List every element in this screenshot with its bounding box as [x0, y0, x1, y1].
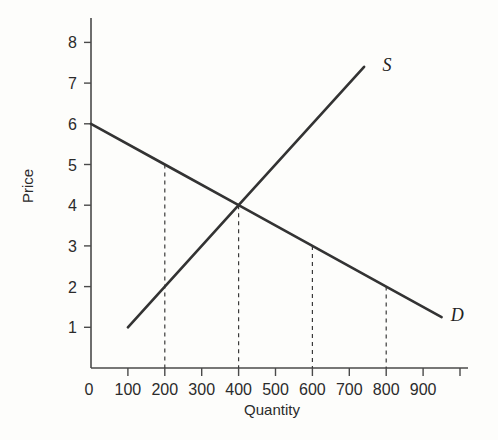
origin-tick-label: 0 — [85, 381, 94, 398]
y-tick-label: 5 — [68, 157, 77, 174]
x-tick-label: 700 — [336, 381, 363, 398]
axes-group — [91, 18, 468, 368]
supply-demand-chart: 12345678 100200300400500600700800900 DS … — [0, 0, 498, 440]
y-tick-label: 6 — [68, 116, 77, 133]
x-tick-label: 300 — [188, 381, 215, 398]
x-tick-label: 200 — [151, 381, 178, 398]
y-axis-title: Price — [19, 169, 36, 203]
x-tick-label: 900 — [410, 381, 437, 398]
y-tick-label: 7 — [68, 75, 77, 92]
curve-label-D: D — [450, 305, 464, 325]
x-tick-label: 400 — [225, 381, 252, 398]
x-tick-label: 500 — [262, 381, 289, 398]
x-axis-ticks: 100200300400500600700800900 — [115, 368, 460, 398]
y-axis-ticks: 12345678 — [68, 34, 91, 336]
y-tick-label: 1 — [68, 319, 77, 336]
curve-label-group: DS — [383, 55, 464, 325]
x-tick-label: 100 — [115, 381, 142, 398]
x-axis-title: Quantity — [244, 401, 300, 418]
y-tick-label: 2 — [68, 279, 77, 296]
y-tick-label: 4 — [68, 197, 77, 214]
dropline-group — [165, 165, 386, 369]
y-tick-label: 3 — [68, 238, 77, 255]
x-tick-label: 600 — [299, 381, 326, 398]
curve-supply — [128, 67, 364, 328]
curve-group — [91, 67, 442, 328]
curve-label-S: S — [383, 55, 392, 75]
y-tick-label: 8 — [68, 34, 77, 51]
x-tick-label: 800 — [373, 381, 400, 398]
curve-demand — [91, 124, 442, 317]
chart-svg: 12345678 100200300400500600700800900 DS … — [0, 0, 498, 440]
